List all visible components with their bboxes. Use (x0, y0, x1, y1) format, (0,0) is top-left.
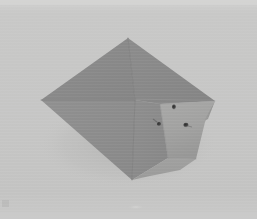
grain-overlay (0, 0, 257, 219)
bottom-edge-band (0, 212, 257, 219)
photograph-canvas (0, 0, 257, 219)
photograph-frame: Grayscale photograph of a folded sheet o… (0, 0, 257, 219)
top-edge-band (0, 0, 257, 5)
